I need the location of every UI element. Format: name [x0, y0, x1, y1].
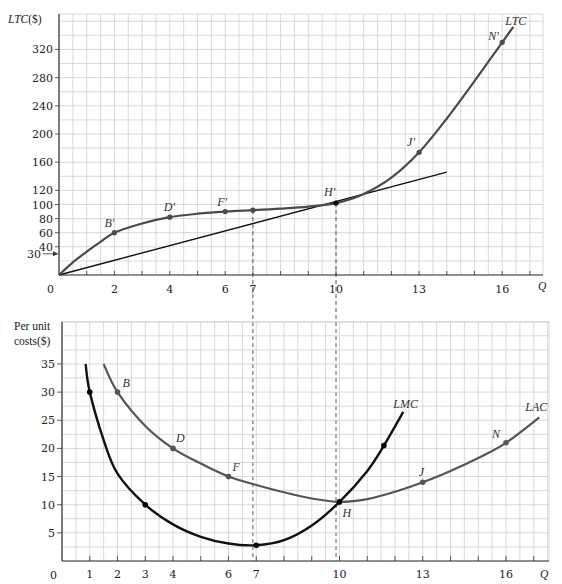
ltc-point-label: F': [216, 195, 227, 209]
ltc-axes: [59, 14, 543, 275]
per-unit-grid: [62, 322, 549, 561]
per-unit-y-axis-label-line1: Per unit: [14, 320, 51, 332]
per-unit-x-tick-label: 1: [86, 568, 93, 581]
ltc-tick-labels: 406080100120160200240280320302467101316: [27, 43, 530, 296]
per-unit-x-tick-label: 13: [416, 568, 430, 581]
lac-data-point: [226, 474, 232, 480]
ltc-y-tick-label: 120: [32, 184, 53, 197]
ltc-data-point: [500, 40, 505, 45]
per-unit-x-tick-label: 7: [253, 568, 260, 581]
ltc-grid: [59, 14, 543, 275]
lac-point-label: B: [123, 376, 131, 390]
lac-point-label: D: [175, 431, 185, 445]
per-unit-x-tick-label: 2: [114, 568, 121, 581]
ltc-x-tick-label: 13: [412, 283, 426, 296]
per-unit-x-tick-label: 6: [225, 568, 232, 581]
per-unit-y-tick-label: 10: [41, 499, 55, 512]
ltc-point-label: J': [407, 135, 415, 149]
lac-point-label: H: [342, 506, 353, 520]
per-unit-y-tick-label: 25: [41, 414, 55, 427]
ltc-x-axis-label: Q: [538, 280, 547, 292]
lac-point-label: J: [419, 465, 425, 479]
lmc-curve-label: LMC: [392, 397, 419, 411]
per-unit-x-tick-label: 4: [170, 568, 177, 581]
per-unit-x-axis-label: Q: [540, 568, 549, 580]
lac-curve-label: LAC: [524, 400, 548, 414]
per-unit-y-tick-label: 20: [41, 442, 55, 455]
ltc-y-tick-label: 100: [32, 199, 53, 212]
lac-data-point: [337, 499, 343, 505]
ltc-y-tick-label: 40: [39, 241, 53, 254]
ltc-data-point: [167, 215, 172, 220]
per-unit-axes: [62, 322, 549, 561]
per-unit-cost-chart: 5101520253035123467101316 LACLMC BDFHJN …: [14, 320, 549, 582]
ltc-x-tick-label: 4: [166, 283, 173, 296]
lac-data-point: [115, 389, 121, 395]
lac-data-point: [420, 479, 426, 485]
per-unit-origin-label: 0: [50, 569, 57, 582]
lmc-data-point: [381, 443, 387, 449]
cost-curves-figure: 406080100120160200240280320302467101316 …: [0, 0, 562, 584]
ltc-chart: 406080100120160200240280320302467101316 …: [7, 13, 547, 296]
arrow-icon: [53, 251, 58, 256]
lac-point-label: F: [232, 460, 241, 474]
lmc-data-point: [142, 502, 148, 508]
ltc-point-label: N': [487, 29, 499, 43]
ltc-y-axis-label: LTC($): [7, 13, 42, 26]
ltc-y-tick-label: 80: [39, 213, 53, 226]
per-unit-series: LACLMC: [86, 364, 549, 545]
lmc-data-point: [87, 389, 93, 395]
ltc-curve: [59, 27, 513, 275]
lmc-data-point: [253, 542, 259, 548]
ltc-origin-label: 0: [47, 283, 54, 296]
per-unit-x-tick-label: 3: [142, 568, 149, 581]
ltc-point-label: B': [104, 216, 114, 230]
per-unit-x-tick-label: 10: [333, 568, 347, 581]
ltc-point-label: H': [323, 185, 336, 199]
per-unit-y-tick-label: 5: [48, 527, 55, 540]
lmc-curve: [86, 364, 404, 545]
ltc-data-point: [223, 209, 228, 214]
ltc-series: LTC: [59, 14, 527, 275]
ltc-x-tick-label: 16: [495, 283, 509, 296]
ltc-x-tick-label: 6: [222, 283, 229, 296]
ltc-y-tick-label: 60: [39, 227, 53, 240]
ltc-data-point: [112, 230, 117, 235]
lac-curve: [104, 364, 540, 502]
ltc-y-tick-label: 200: [32, 128, 53, 141]
ltc-point-label: D': [163, 200, 176, 214]
lac-data-point: [503, 440, 509, 446]
per-unit-y-tick-label: 35: [41, 358, 55, 371]
lac-data-point: [170, 446, 176, 452]
ltc-y-tick-label: 320: [32, 43, 53, 56]
ltc-curve-label: LTC: [504, 14, 527, 28]
per-unit-y-tick-label: 30: [41, 386, 55, 399]
ltc-y-tick-label: 160: [32, 156, 53, 169]
ltc-y-marker-label: 30: [27, 248, 41, 261]
ltc-y-tick-label: 280: [32, 72, 53, 85]
per-unit-y-tick-label: 15: [41, 471, 55, 484]
per-unit-x-tick-label: 16: [499, 568, 513, 581]
ltc-data-point: [417, 150, 422, 155]
lac-point-label: N: [491, 427, 501, 441]
ltc-x-tick-label: 2: [111, 283, 118, 296]
ltc-y-tick-label: 240: [32, 100, 53, 113]
per-unit-y-axis-label-line2: costs($): [14, 335, 51, 348]
